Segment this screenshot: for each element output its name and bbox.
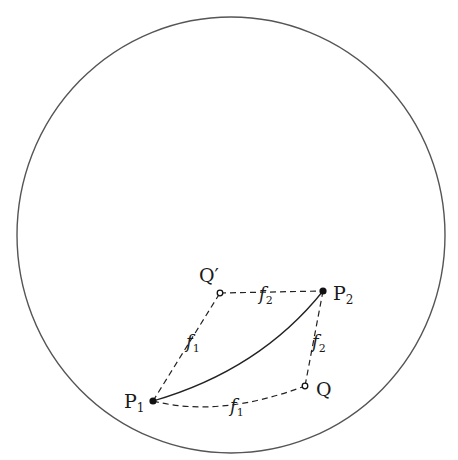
point-q: [302, 383, 308, 389]
edge-p1-q: [153, 386, 305, 407]
curve-p1-p2: [153, 291, 323, 401]
edge-qprime-p2: [220, 291, 323, 293]
label-f-right: f2: [310, 331, 326, 355]
diagram-canvas: P1 P2 Q Q′ f2 f1 f2 f1: [0, 0, 458, 460]
dashed-edges: [153, 291, 323, 407]
label-p2: P2: [333, 282, 353, 307]
label-f-left: f1: [184, 331, 200, 355]
point-p2: [319, 287, 326, 294]
label-f-bottom: f1: [228, 395, 244, 419]
point-qprime: [217, 290, 223, 296]
point-p1: [149, 397, 156, 404]
boundary-circle: [17, 17, 445, 453]
label-p1: P1: [124, 390, 144, 415]
label-qprime: Q′: [199, 264, 219, 286]
label-f-top: f2: [257, 283, 273, 307]
label-q: Q: [316, 378, 332, 400]
